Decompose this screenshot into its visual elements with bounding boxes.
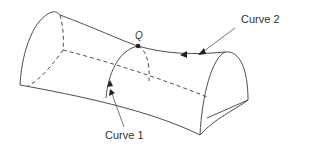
curve-2-direction-arrow (180, 51, 187, 58)
curve-1-label: Curve 1 (105, 130, 144, 141)
curve-1-pointer (111, 91, 124, 127)
curve-2-label: Curve 2 (241, 14, 280, 25)
point-q-label: Q (135, 31, 143, 41)
right-end-arc (200, 52, 248, 135)
curve-2-pointer (200, 28, 235, 54)
left-end-front-arc (20, 12, 60, 85)
left-end-hidden-arc (28, 15, 63, 86)
point-q-marker (136, 44, 141, 49)
rear-edge (207, 100, 248, 118)
curve-1-pointer-arrow-head (109, 89, 115, 96)
curve-2-arrow-head (198, 48, 206, 55)
curve-1-hidden (138, 46, 149, 81)
